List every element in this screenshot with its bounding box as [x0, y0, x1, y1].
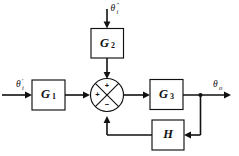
block-g2-subscript: 2: [111, 41, 115, 50]
block-g1[interactable]: G 1: [32, 80, 65, 110]
block-g2[interactable]: G 2: [91, 29, 124, 59]
wire-g2-to-sum: [104, 58, 111, 79]
block-g2-label: G: [100, 36, 109, 50]
block-g3-subscript: 3: [170, 92, 174, 101]
signal-theta-i-double-prime-base: θ: [111, 3, 116, 13]
signal-theta-o-subscript: o: [219, 84, 223, 91]
block-h-label: H: [162, 127, 174, 141]
summing-junction[interactable]: + + −: [91, 79, 124, 112]
signal-theta-i-prime-subscript: i: [22, 84, 24, 91]
wire-branch-to-h: [184, 95, 201, 138]
block-diagram-canvas: G 2 G 1 G 3 H + + −: [0, 0, 239, 156]
wire-sum-to-g3: [124, 92, 150, 99]
block-g3-label: G: [159, 87, 168, 101]
wire-input-primary-to-g1: [2, 92, 32, 99]
wire-input-secondary-to-g2: [104, 9, 111, 29]
sum-sign-bottom: −: [105, 100, 110, 109]
signal-theta-i-double-prime-subscript: i: [117, 8, 119, 15]
block-g1-label: G: [41, 87, 50, 101]
block-g3[interactable]: G 3: [150, 80, 183, 110]
signal-theta-i-prime-base: θ: [16, 79, 21, 89]
sum-sign-left: +: [95, 90, 100, 99]
sum-sign-top: +: [105, 81, 110, 90]
signal-theta-i-prime: θ ′ i: [16, 77, 24, 92]
block-g1-subscript: 1: [52, 92, 56, 101]
wire-h-to-sum: [104, 116, 152, 135]
block-h[interactable]: H: [152, 120, 184, 150]
signal-theta-o-base: θ: [213, 79, 218, 89]
wire-g3-to-output: [183, 92, 231, 99]
signal-theta-i-double-prime: θ ″ i: [111, 1, 120, 16]
signal-theta-o: θ o: [213, 79, 223, 91]
wire-g1-to-sum: [65, 92, 90, 99]
block-diagram-svg: G 2 G 1 G 3 H + + −: [0, 0, 239, 156]
